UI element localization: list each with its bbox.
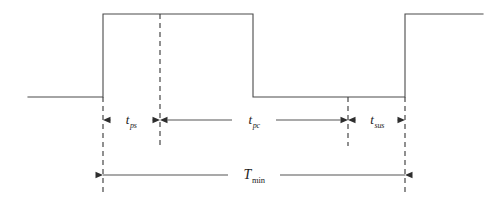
dimension-T-min-arrow-left xyxy=(96,172,104,178)
label-t-sus-subscript: sus xyxy=(374,121,384,130)
label-T-min-symbol: T xyxy=(244,167,252,182)
label-T-min-subscript: min xyxy=(252,175,265,185)
pulse-waveform xyxy=(28,14,483,97)
dimension-t-sus-arrow-right xyxy=(398,117,406,123)
label-t-pc: tpc xyxy=(248,111,259,127)
dimension-t-pc-arrow-right xyxy=(341,117,349,123)
label-t-ps-subscript: ps xyxy=(130,121,137,130)
dimension-t-ps-arrow-right xyxy=(153,117,161,123)
label-t-sus: tsus xyxy=(370,111,384,127)
waveform-path xyxy=(28,14,483,97)
dimension-t-ps-arrow-left xyxy=(103,117,111,123)
dimension-T-min-arrow-right xyxy=(405,172,413,178)
timing-diagram-figure: tps tpc tsus Tmin xyxy=(0,0,504,208)
label-t-ps: tps xyxy=(126,111,137,127)
dimension-t-pc-arrow-left xyxy=(160,117,168,123)
label-T-min: Tmin xyxy=(244,166,265,182)
label-t-pc-subscript: pc xyxy=(253,121,260,130)
dimension-t-sus-arrow-left xyxy=(348,117,356,123)
